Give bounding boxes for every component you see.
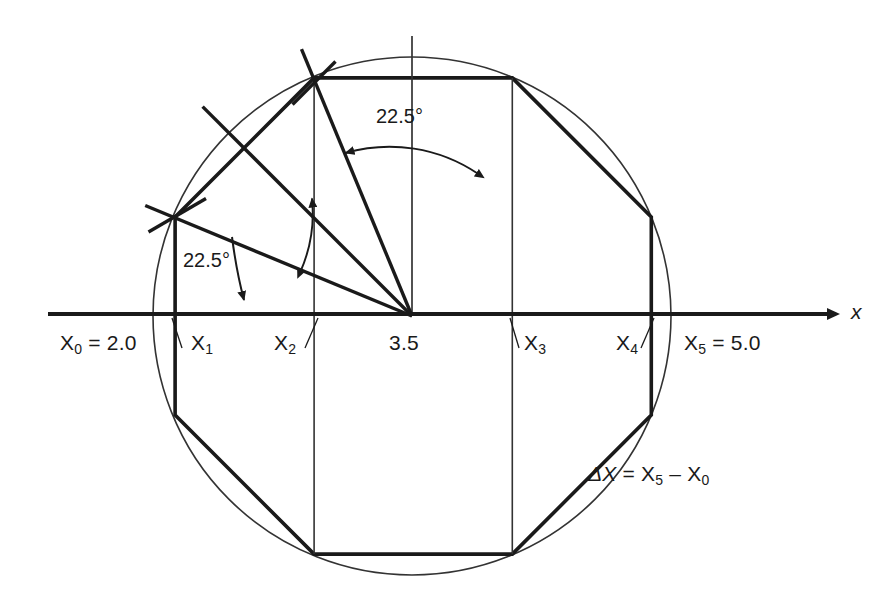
x4-subscript: 4	[630, 341, 638, 357]
diagram-svg	[0, 0, 889, 608]
tick-label-center: 3.5	[389, 331, 419, 355]
figure-canvas: 22.5° 22.5° X0 = 2.0 X1 X2 3.5 X3 X4 X5 …	[0, 0, 889, 608]
ray-135-degrees	[203, 107, 412, 316]
x1-subscript: 1	[205, 341, 213, 357]
tick-label-x0: X0 = 2.0	[60, 331, 137, 357]
tick-label-x4: X4	[616, 331, 638, 357]
delta-minus: –	[669, 462, 681, 485]
x0-suffix: = 2.0	[82, 331, 136, 354]
x4-base: X	[616, 331, 630, 354]
delta-term-b: X	[687, 462, 701, 485]
x0-base: X	[60, 331, 74, 354]
x-axis-label-text: x	[851, 300, 862, 323]
delta-term-a-sub: 5	[655, 472, 663, 488]
angle-label-upper: 22.5°	[376, 105, 423, 128]
x5-suffix: = 5.0	[706, 331, 760, 354]
x3-subscript: 3	[538, 341, 546, 357]
delta-x-equation: ΔX = X5 – X0	[588, 462, 709, 488]
delta-equals: =	[623, 462, 635, 485]
x1-base: X	[191, 331, 205, 354]
delta-lhs: ΔX	[588, 462, 617, 485]
tick-label-x1: X1	[191, 331, 213, 357]
leader-x3	[510, 318, 519, 348]
angle-label-lower: 22.5°	[183, 249, 230, 272]
x2-subscript: 2	[288, 341, 296, 357]
delta-term-a: X	[641, 462, 655, 485]
tick-label-x5: X5 = 5.0	[684, 331, 761, 357]
delta-term-b-sub: 0	[701, 472, 709, 488]
x3-base: X	[524, 331, 538, 354]
tick-label-x2: X2	[274, 331, 296, 357]
tick-label-x3: X3	[524, 331, 546, 357]
x2-base: X	[274, 331, 288, 354]
x5-base: X	[684, 331, 698, 354]
x-axis-label: x	[851, 300, 862, 324]
leader-x2	[305, 318, 318, 348]
